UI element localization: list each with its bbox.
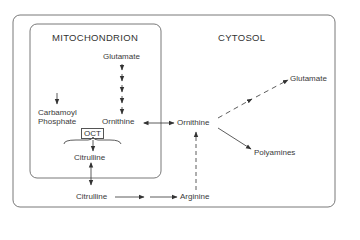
oct-enzyme-box: OCT	[81, 128, 104, 139]
mito-glutamate-node: Glutamate	[103, 53, 140, 61]
cyto-glutamate-node: Glutamate	[290, 75, 327, 83]
mitochondrion-label: MITOCHONDRION	[52, 33, 138, 43]
mito-ornithine-node: Ornithine	[102, 118, 134, 126]
carbamoyl-phosphate-node-line1: Carbamoyl	[38, 109, 77, 117]
cytosol-label: CYTOSOL	[218, 33, 265, 43]
cyto-ornithine-node: Ornithine	[177, 119, 209, 127]
carbamoyl-phosphate-node-line2: Phosphate	[38, 118, 76, 126]
arginine-node: Arginine	[180, 193, 209, 201]
polyamines-node: Polyamines	[254, 149, 295, 157]
cyto-citrulline-node: Citrulline	[76, 193, 107, 201]
mito-citrulline-node: Citrulline	[74, 154, 105, 162]
